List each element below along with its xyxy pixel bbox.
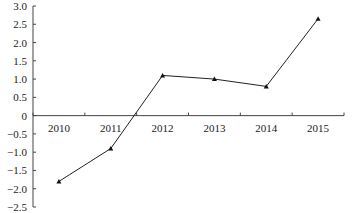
line-chart: 3.02.52.01.51.00.50−0.5−1.0−1.5−2.0−2.5 … <box>0 0 359 213</box>
y-tick-label: 2.5 <box>13 18 27 30</box>
y-tick-label: −2.5 <box>7 201 27 213</box>
triangle-marker-icon <box>56 179 61 184</box>
y-tick-label: 0.5 <box>13 91 27 103</box>
data-series <box>56 16 320 183</box>
y-tick-label: −1.5 <box>7 164 27 176</box>
x-tick-label: 2015 <box>307 122 330 134</box>
y-tick-label: −0.5 <box>7 128 27 140</box>
y-tick-label: 2.0 <box>13 37 27 49</box>
y-tick-label: 0 <box>22 110 28 122</box>
y-tick-label: 1.0 <box>13 73 27 85</box>
x-axis: 201020112012201320142015 <box>33 113 344 134</box>
x-tick-label: 2013 <box>203 122 226 134</box>
x-tick-label: 2010 <box>48 122 71 134</box>
y-tick-label: 1.5 <box>13 55 27 67</box>
x-tick-label: 2011 <box>100 122 122 134</box>
y-tick-label: 3.0 <box>13 0 27 12</box>
y-axis: 3.02.52.01.51.00.50−0.5−1.0−1.5−2.0−2.5 <box>7 0 36 213</box>
y-tick-label: −1.0 <box>7 146 27 158</box>
x-tick-label: 2012 <box>152 122 174 134</box>
series-line <box>59 19 318 182</box>
y-tick-label: −2.0 <box>7 183 27 195</box>
x-tick-label: 2014 <box>255 122 278 134</box>
triangle-marker-icon <box>316 16 321 21</box>
